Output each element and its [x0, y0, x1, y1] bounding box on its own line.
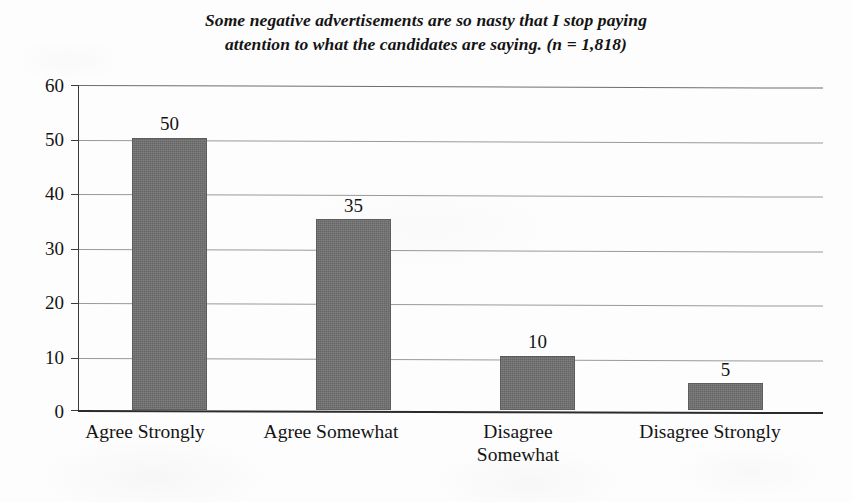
- bar-disagree-somewhat[interactable]: [500, 356, 575, 411]
- y-axis-label-50: 50: [18, 130, 64, 149]
- y-tick-20: [71, 303, 78, 304]
- y-axis-label-40: 40: [18, 184, 64, 203]
- y-tick-60: [71, 85, 78, 86]
- y-axis-label-30: 30: [18, 239, 64, 258]
- category-label-agree-somewhat-line-1: Agree Somewhat: [264, 421, 399, 442]
- category-label-disagree-somewhat: Disagree Somewhat: [425, 420, 611, 466]
- y-tick-40: [71, 194, 78, 195]
- bar-disagree-strongly[interactable]: [688, 383, 763, 410]
- plot-area: 50 35 10 5: [78, 85, 823, 412]
- chart-title-line-1: Some negative advertisements are so nast…: [0, 8, 852, 32]
- bar-agree-somewhat[interactable]: [316, 219, 391, 410]
- bar-value-disagree-somewhat: 10: [500, 332, 575, 351]
- category-label-disagree-somewhat-line-1: Disagree: [483, 421, 552, 442]
- y-axis-label-20: 20: [18, 293, 64, 312]
- bar-value-agree-somewhat: 35: [316, 196, 391, 215]
- bar-agree-strongly[interactable]: [132, 138, 207, 411]
- y-tick-50: [71, 140, 78, 141]
- y-tick-10: [71, 358, 78, 359]
- bar-value-disagree-strongly: 5: [688, 360, 763, 379]
- category-label-agree-strongly: Agree Strongly: [52, 420, 238, 443]
- y-tick-0: [71, 410, 78, 411]
- y-tick-30: [71, 249, 78, 250]
- category-label-agree-strongly-line-1: Agree Strongly: [85, 421, 205, 442]
- bar-value-agree-strongly: 50: [132, 114, 207, 133]
- y-axis-label-60: 60: [18, 76, 64, 95]
- gridline-60: [78, 85, 823, 89]
- x-axis-line: [78, 410, 823, 414]
- y-axis-label-0: 0: [18, 402, 64, 421]
- category-label-disagree-strongly-line-1: Disagree Strongly: [639, 421, 780, 442]
- category-label-disagree-somewhat-line-2: Somewhat: [425, 443, 611, 466]
- y-axis-line: [78, 85, 79, 412]
- chart-title-line-2: attention to what the candidates are say…: [0, 32, 852, 56]
- category-label-disagree-strongly: Disagree Strongly: [612, 420, 808, 443]
- y-axis-label-10: 10: [18, 348, 64, 367]
- category-label-agree-somewhat: Agree Somewhat: [238, 420, 424, 443]
- chart-title: Some negative advertisements are so nast…: [0, 8, 852, 56]
